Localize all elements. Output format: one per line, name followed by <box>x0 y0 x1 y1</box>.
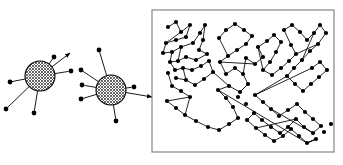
network-node <box>312 31 316 35</box>
network-node <box>181 66 185 70</box>
hub-spoke-edge <box>83 71 99 81</box>
network-node <box>216 88 220 92</box>
network-edge <box>166 32 181 43</box>
network-node <box>176 59 180 63</box>
network-node <box>294 117 298 121</box>
network-node <box>174 106 178 110</box>
network-node <box>316 42 320 46</box>
network-node <box>287 59 291 63</box>
hub-cluster-right <box>79 48 152 124</box>
hub-leaf-node <box>79 68 84 73</box>
network-node <box>278 131 282 135</box>
network-node <box>265 39 269 43</box>
network-node <box>244 56 248 60</box>
hub-spoke-edge <box>34 91 37 111</box>
network-node <box>303 110 307 114</box>
network-edges-layer <box>163 22 327 143</box>
network-node <box>235 48 239 52</box>
hub-spoke-edge <box>49 59 53 64</box>
hub-spoke-edge <box>126 93 152 97</box>
network-node <box>289 127 293 131</box>
network-node <box>329 122 333 126</box>
network-edge <box>220 62 255 64</box>
network-edge <box>218 90 307 143</box>
network-node <box>170 84 174 88</box>
network-node <box>224 72 228 76</box>
network-node <box>298 30 302 34</box>
network-node <box>242 28 246 32</box>
network-node <box>165 99 169 103</box>
network-node <box>236 95 240 99</box>
network-panel-group <box>152 10 334 152</box>
network-node <box>318 23 322 27</box>
hub-leaf-node <box>52 55 57 60</box>
network-node <box>269 125 273 129</box>
network-node <box>188 23 192 27</box>
network-node <box>322 130 326 134</box>
network-node <box>260 118 264 122</box>
network-node <box>184 35 188 39</box>
network-node <box>218 60 222 64</box>
network-node <box>325 68 329 72</box>
hub-clusters-layer <box>4 48 152 124</box>
network-node <box>263 133 267 137</box>
network-node <box>253 93 257 97</box>
network-node <box>272 33 276 37</box>
network-node <box>282 28 286 32</box>
hub-leaf-node <box>97 48 102 53</box>
hub-spoke-edge <box>113 105 115 119</box>
network-node <box>203 23 207 27</box>
network-node <box>199 64 203 68</box>
network-node <box>211 70 215 74</box>
network-node <box>233 22 237 26</box>
network-node <box>319 124 323 128</box>
network-node <box>256 45 260 49</box>
hub-spoke-edge <box>8 86 30 107</box>
hub-leaf-node <box>80 83 85 88</box>
network-node <box>279 40 283 44</box>
network-node <box>314 137 318 141</box>
network-node <box>270 73 274 77</box>
network-node <box>254 126 258 130</box>
network-node <box>161 51 165 55</box>
network-node <box>281 134 285 138</box>
network-node <box>250 34 254 38</box>
network-node <box>202 77 206 81</box>
network-node <box>168 60 172 64</box>
network-node <box>244 102 248 106</box>
network-node <box>253 62 257 66</box>
network-edge <box>255 76 287 95</box>
network-node <box>285 74 289 78</box>
network-node <box>201 38 205 42</box>
network-node <box>302 125 306 129</box>
network-node <box>174 76 178 80</box>
network-node <box>227 84 231 88</box>
network-node <box>289 43 293 47</box>
network-node <box>268 60 272 64</box>
network-node <box>279 66 283 70</box>
network-node <box>170 50 174 54</box>
network-node <box>188 95 192 99</box>
network-node <box>227 122 231 126</box>
hub-leaf-node <box>32 111 37 116</box>
network-node <box>305 141 309 145</box>
network-node <box>193 83 197 87</box>
network-node <box>272 139 276 143</box>
network-node <box>166 25 170 29</box>
network-node <box>305 38 309 42</box>
network-node <box>190 68 194 72</box>
network-node <box>261 68 265 72</box>
network-node <box>311 117 315 121</box>
network-node <box>309 82 313 86</box>
network-node <box>241 72 245 76</box>
network-node <box>183 113 187 117</box>
network-node <box>311 131 315 135</box>
network-node <box>236 116 240 120</box>
network-edge <box>178 47 181 61</box>
network-node <box>179 30 183 34</box>
network-node <box>317 75 321 79</box>
network-node <box>173 68 177 72</box>
network-edge <box>284 30 291 45</box>
network-node <box>233 66 237 70</box>
hub-spoke-edge <box>126 87 132 88</box>
